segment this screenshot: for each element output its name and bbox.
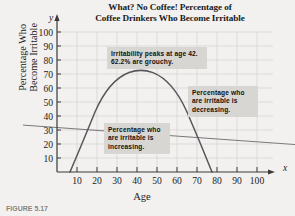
x-axis-letter: x xyxy=(283,163,287,173)
annotation-increasing-line-2: are irritable is xyxy=(108,134,166,143)
annotation-decreasing-line-3: decreasing. xyxy=(192,106,254,115)
annotation-decreasing: Percentage who are irritable is decreasi… xyxy=(188,86,258,117)
y-tick-label-20: 20 xyxy=(17,139,53,150)
x-tick-label-100: 100 xyxy=(245,175,269,186)
y-tick-label-60: 60 xyxy=(17,83,53,94)
x-axis-title: Age xyxy=(92,191,192,202)
y-tick-label-90: 90 xyxy=(17,41,53,52)
y-tick-label-50: 50 xyxy=(17,97,53,108)
annotation-decreasing-line-2: are irritable is xyxy=(192,97,254,106)
chart-title-line-1: What? No Coffee! Percentage of xyxy=(52,2,288,13)
chart-title: What? No Coffee! Percentage of Coffee Dr… xyxy=(52,2,288,23)
y-tick-label-30: 30 xyxy=(17,125,53,136)
figure-caption: FIGURE 5.17 xyxy=(6,205,48,212)
y-axis-letter: y xyxy=(49,13,53,23)
y-tick-label-10: 10 xyxy=(17,153,53,164)
annotation-increasing: Percentage who are irritable is increasi… xyxy=(104,123,170,154)
figure-container: What? No Coffee! Percentage of Coffee Dr… xyxy=(0,0,295,216)
annotation-increasing-line-3: increasing. xyxy=(108,143,166,152)
annotation-peak-line-2: 62.2% are grouchy. xyxy=(111,58,203,67)
x-axis-arrow xyxy=(268,169,275,174)
annotation-decreasing-line-1: Percentage who xyxy=(192,89,254,98)
annotation-increasing-line-1: Percentage who xyxy=(108,126,166,135)
annotation-peak-line-1: Irritability peaks at age 42. xyxy=(111,50,203,59)
y-tick-label-100: 100 xyxy=(17,27,53,38)
y-tick-label-70: 70 xyxy=(17,69,53,80)
chart-title-line-2: Coffee Drinkers Who Become Irritable xyxy=(52,13,288,24)
y-tick-label-80: 80 xyxy=(17,55,53,66)
annotation-peak: Irritability peaks at age 42. 62.2% are … xyxy=(107,47,207,69)
y-tick-label-40: 40 xyxy=(17,111,53,122)
